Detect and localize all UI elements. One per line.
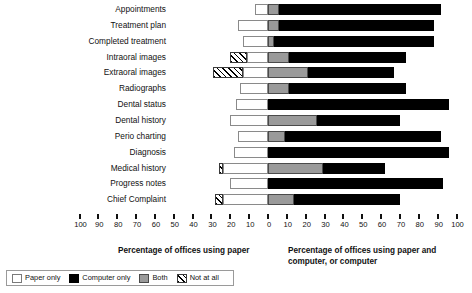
bar-row [0, 131, 472, 142]
legend-swatch-both [139, 274, 149, 283]
bar-segment-not-at-all [219, 163, 223, 174]
axis-tick [361, 214, 363, 219]
bar-row [0, 194, 472, 205]
bar-row [0, 178, 472, 189]
bar-segment-both [268, 131, 285, 142]
axis-tick [135, 214, 137, 219]
bar-row [0, 52, 472, 63]
legend-swatch-none [177, 274, 187, 283]
axis-tick [305, 214, 307, 219]
bar-segment-computer-only [268, 178, 443, 189]
legend-item: Computer only [69, 274, 130, 283]
axis-title-right: Percentage of offices using paper and co… [288, 246, 458, 267]
bar-row [0, 99, 472, 110]
bar-segment-both [268, 194, 294, 205]
axis-tick [79, 214, 81, 219]
plot-area [0, 0, 472, 213]
bar-segment-computer-only [268, 99, 449, 110]
bar-segment-both [268, 67, 308, 78]
legend-item: Both [139, 274, 167, 283]
bar-segment-computer-only [285, 131, 441, 142]
axis-tick [116, 214, 118, 219]
bar-segment-paper-only [230, 115, 268, 126]
bar-segment-paper-only [243, 36, 268, 47]
bar-segment-computer-only [308, 67, 395, 78]
axis-tick [286, 214, 288, 219]
bar-segment-paper-only [247, 52, 268, 63]
axis-tick [437, 214, 439, 219]
bar-segment-not-at-all [230, 52, 247, 63]
chart-root: AppointmentsTreatment planCompleted trea… [0, 0, 472, 293]
bar-row [0, 147, 472, 158]
chart-legend: Paper onlyComputer onlyBothNot at all [6, 270, 234, 286]
bar-segment-paper-only [230, 178, 268, 189]
bar-row [0, 36, 472, 47]
bar-segment-paper-only [238, 131, 268, 142]
bar-segment-computer-only [294, 194, 400, 205]
bar-segment-paper-only [243, 67, 268, 78]
axis-tick [210, 214, 212, 219]
bar-segment-paper-only [223, 194, 268, 205]
bar-segment-computer-only [279, 20, 434, 31]
legend-item: Paper only [12, 274, 60, 283]
bar-row [0, 4, 472, 15]
bar-row [0, 115, 472, 126]
bar-segment-paper-only [255, 4, 268, 15]
legend-swatch-computer [69, 274, 79, 283]
bar-segment-both [268, 83, 289, 94]
legend-item: Not at all [177, 274, 219, 283]
bar-segment-computer-only [289, 83, 406, 94]
bar-segment-computer-only [274, 36, 434, 47]
axis-tick [97, 214, 99, 219]
axis-tick [342, 214, 344, 219]
axis-tick [154, 214, 156, 219]
bar-segment-computer-only [279, 4, 441, 15]
bar-row [0, 67, 472, 78]
axis-tick [456, 214, 458, 219]
legend-label: Both [152, 274, 167, 282]
legend-swatch-paper [12, 274, 22, 283]
bar-segment-computer-only [268, 147, 449, 158]
bar-segment-computer-only [317, 115, 400, 126]
bar-segment-paper-only [240, 83, 268, 94]
bar-row [0, 83, 472, 94]
axis-tick [192, 214, 194, 219]
legend-label: Not at all [190, 274, 219, 282]
bar-segment-computer-only [323, 163, 385, 174]
legend-label: Computer only [82, 274, 130, 282]
bar-segment-paper-only [223, 163, 268, 174]
bar-segment-not-at-all [213, 67, 243, 78]
bar-segment-both [268, 115, 317, 126]
axis-title-left: Percentage of offices using paper [118, 246, 268, 257]
axis-tick [418, 214, 420, 219]
axis-tick [173, 214, 175, 219]
bar-segment-both [268, 20, 279, 31]
bar-segment-not-at-all [215, 194, 223, 205]
axis-tick-label: 100 [447, 221, 469, 229]
bar-segment-both [268, 4, 279, 15]
bar-segment-both [268, 163, 323, 174]
bar-segment-paper-only [234, 147, 268, 158]
bar-segment-paper-only [236, 99, 268, 110]
bar-row [0, 20, 472, 31]
axis-tick [267, 214, 269, 219]
axis-tick [399, 214, 401, 219]
axis-tick [324, 214, 326, 219]
value-axis: 1009080706050403020100102030405060708090… [0, 214, 472, 236]
bar-segment-computer-only [289, 52, 406, 63]
legend-label: Paper only [25, 274, 60, 282]
axis-tick [380, 214, 382, 219]
axis-tick [248, 214, 250, 219]
bar-segment-paper-only [238, 20, 268, 31]
axis-tick [229, 214, 231, 219]
bar-row [0, 163, 472, 174]
bar-segment-both [268, 52, 289, 63]
